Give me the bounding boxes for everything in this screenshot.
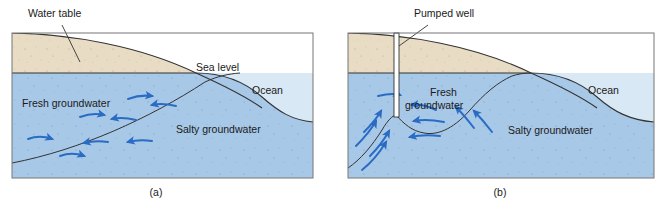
panel-b-label-ocean: Ocean <box>588 84 619 96</box>
panel-b-label-pumped-well: Pumped well <box>414 7 474 19</box>
panel-b-pumped-well <box>394 33 399 117</box>
panel-b-land <box>348 33 531 73</box>
panel-a-label-salty-groundwater: Salty groundwater <box>176 123 261 135</box>
figure-root: Water table Sea level Ocean Fresh ground… <box>0 0 668 204</box>
panel-b-caption: (b) <box>494 186 507 198</box>
panel-b: Pumped well Ocean Fresh groundwater Salt… <box>348 7 654 198</box>
panel-a-label-water-table: Water table <box>28 7 81 19</box>
panel-a-label-ocean: Ocean <box>252 84 283 96</box>
panel-a-label-fresh-groundwater: Fresh groundwater <box>22 97 111 109</box>
panel-b-label-fresh-groundwater-line2: groundwater <box>405 99 464 111</box>
groundwater-diagram: Water table Sea level Ocean Fresh ground… <box>0 0 668 204</box>
panel-b-label-salty-groundwater: Salty groundwater <box>508 124 593 136</box>
panel-a: Water table Sea level Ocean Fresh ground… <box>12 7 313 198</box>
panel-a-label-sea-level: Sea level <box>196 61 239 73</box>
panel-b-well-casing <box>394 33 399 117</box>
panel-a-land <box>12 33 196 73</box>
panel-b-label-fresh-groundwater-line1: Fresh <box>430 86 457 98</box>
panel-a-caption: (a) <box>150 186 163 198</box>
